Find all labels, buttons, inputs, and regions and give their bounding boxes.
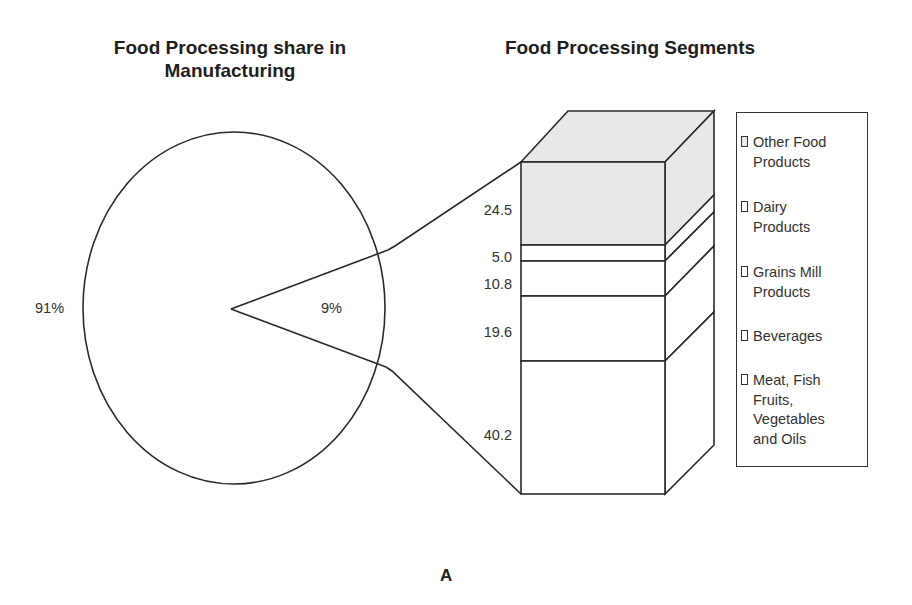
legend-swatch-icon xyxy=(741,374,748,385)
legend-text: Products xyxy=(753,283,873,303)
legend-text: Other Food xyxy=(753,133,873,153)
legend-item-dairy: Dairy Products xyxy=(741,198,873,237)
bar-front-other-food xyxy=(521,162,665,245)
pie-label-other: 91% xyxy=(35,300,64,316)
legend-text: Vegetables xyxy=(753,410,873,430)
legend-text: and Oils xyxy=(753,430,873,450)
bar-front-meat xyxy=(521,361,665,494)
bar-front-beverages xyxy=(521,296,665,361)
bar-front-dairy xyxy=(521,245,665,261)
segment-label-other-food: 24.5 xyxy=(452,202,512,218)
pie-chart xyxy=(83,132,388,484)
legend-swatch-icon xyxy=(741,266,748,277)
legend-text: Meat, Fish xyxy=(753,371,873,391)
stacked-3d-bar xyxy=(521,111,714,494)
legend-item-beverages: Beverages xyxy=(741,327,873,347)
segment-label-grains: 10.8 xyxy=(452,276,512,292)
legend-text: Products xyxy=(753,153,873,173)
segment-label-dairy: 5.0 xyxy=(452,249,512,265)
legend-text: Fruits, xyxy=(753,391,873,411)
legend-item-grains: Grains Mill Products xyxy=(741,263,873,302)
legend-text: Products xyxy=(753,218,873,238)
legend-swatch-icon xyxy=(741,330,748,341)
segment-label-beverages: 19.6 xyxy=(452,324,512,340)
legend-text: Grains Mill xyxy=(753,263,873,283)
figure-caption: A xyxy=(440,566,452,586)
legend-text: Dairy xyxy=(753,198,873,218)
legend-text: Beverages xyxy=(753,327,873,347)
legend-swatch-icon xyxy=(741,201,748,212)
legend: Other Food Products Dairy Products Grain… xyxy=(736,112,868,467)
segment-label-meat: 40.2 xyxy=(452,427,512,443)
bar-front-grains xyxy=(521,261,665,296)
legend-item-other-food: Other Food Products xyxy=(741,133,873,172)
legend-item-meat-fish: Meat, Fish Fruits, Vegetables and Oils xyxy=(741,371,873,449)
pie-label-food-processing: 9% xyxy=(321,300,342,316)
legend-swatch-icon xyxy=(741,136,748,147)
